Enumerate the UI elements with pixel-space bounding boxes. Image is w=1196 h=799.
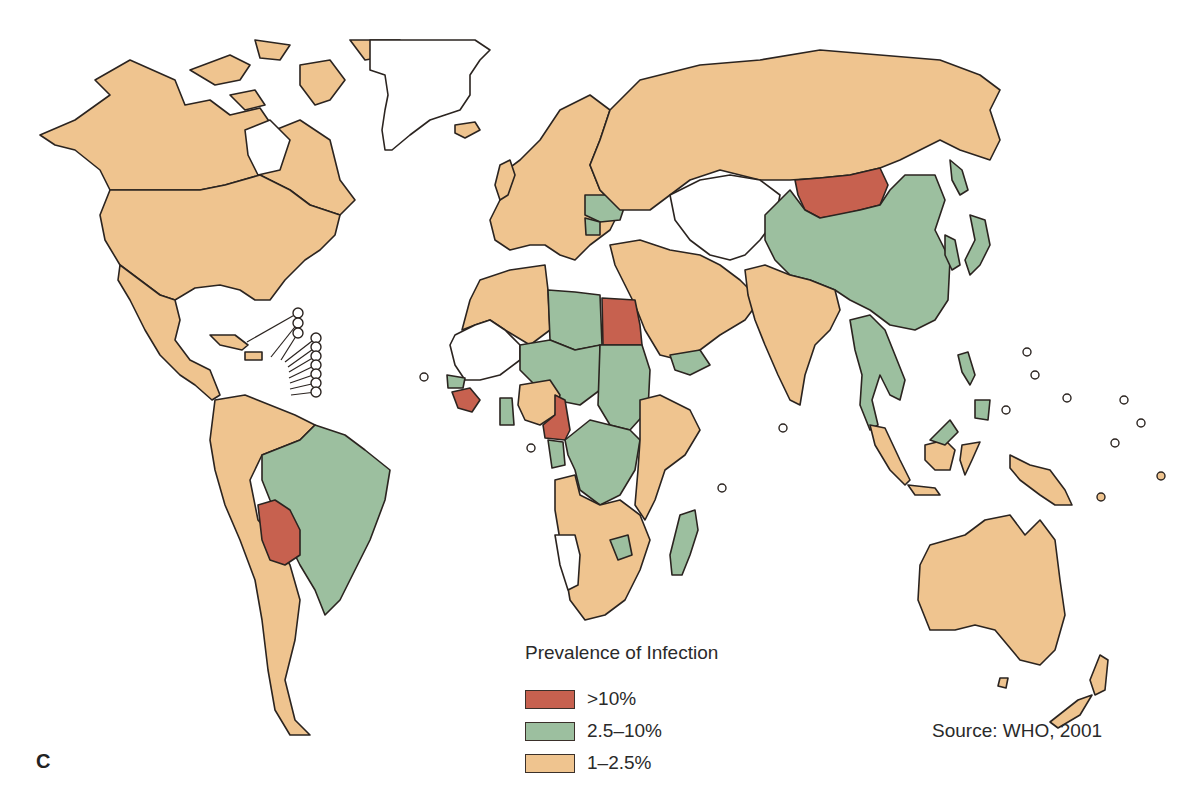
region-india	[745, 265, 840, 405]
region-egypt	[602, 298, 642, 345]
region-hispaniola	[245, 352, 262, 360]
legend-item-mid: 2.5–10%	[525, 716, 718, 746]
panel-letter: C	[36, 750, 50, 773]
legend-label-high: >10%	[587, 688, 636, 710]
source-caption: Source: WHO, 2001	[932, 720, 1102, 742]
region-iceland	[455, 122, 480, 138]
region-guinea	[452, 388, 480, 412]
legend-item-low: 1–2.5%	[525, 748, 718, 778]
region-australia	[918, 515, 1065, 665]
legend-swatch-low	[525, 754, 575, 773]
region-new-guinea	[1010, 455, 1072, 505]
legend-label-mid: 2.5–10%	[587, 720, 662, 742]
region-philippines	[958, 352, 990, 420]
region-java	[908, 485, 940, 495]
region-central-asia	[670, 175, 780, 260]
region-sulawesi	[960, 442, 980, 475]
region-sumatra	[870, 425, 910, 485]
legend-item-high: >10%	[525, 684, 718, 714]
region-borneo	[925, 440, 955, 470]
region-east-africa	[635, 395, 700, 520]
region-malaysia-borneo	[930, 420, 958, 445]
region-ghana	[500, 398, 514, 425]
legend-label-low: 1–2.5%	[587, 752, 651, 774]
region-libya	[548, 290, 602, 350]
region-southeast-asia	[850, 315, 905, 430]
region-yemen	[670, 350, 710, 375]
legend-swatch-high	[525, 690, 575, 709]
region-madagascar	[670, 510, 698, 575]
region-cuba	[210, 335, 248, 350]
region-namibia	[555, 535, 580, 590]
legend: Prevalence of Infection >10% 2.5–10% 1–2…	[525, 642, 718, 780]
region-new-zealand	[1050, 655, 1108, 728]
region-tasmania	[998, 678, 1008, 688]
region-senegal	[447, 375, 465, 388]
region-gabon	[548, 440, 565, 468]
legend-title: Prevalence of Infection	[525, 642, 718, 664]
region-arctic-islands	[190, 40, 400, 110]
legend-swatch-mid	[525, 722, 575, 741]
